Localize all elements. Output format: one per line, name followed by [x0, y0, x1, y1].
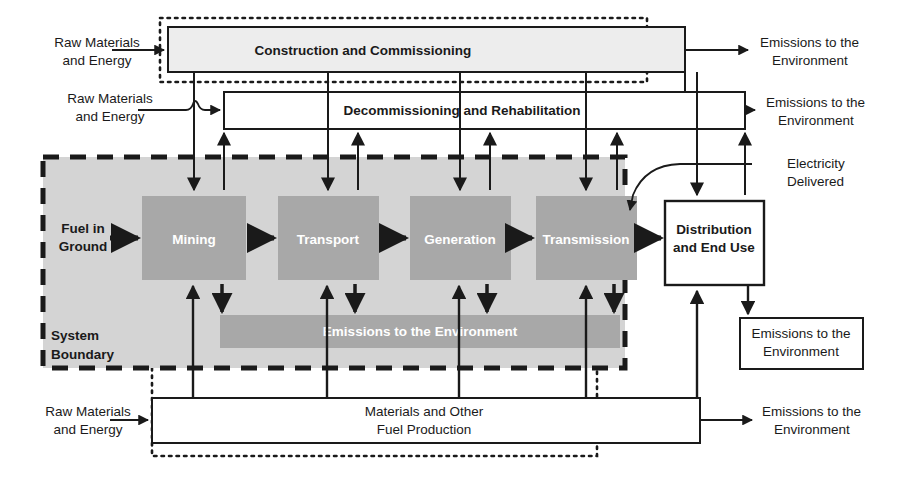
materials-production-label-line2: Fuel Production: [377, 422, 472, 437]
input-label-raw-materials-2-line2: and Energy: [75, 109, 144, 124]
output-label-emissions-3-line1: Emissions to the: [762, 404, 861, 419]
output-label-emissions-2-line1: Emissions to the: [766, 95, 865, 110]
input-label-raw-materials-2-line1: Raw Materials: [67, 91, 153, 106]
output-label-emissions-1-line1: Emissions to the: [760, 35, 859, 50]
input-label-fuel-in-ground-line1: Fuel in: [61, 221, 105, 236]
system-boundary-label-line2: Boundary: [51, 347, 114, 362]
emissions-end-use-label-line2: Environment: [763, 344, 839, 359]
process-label-transport: Transport: [297, 232, 360, 247]
materials-production-label-line1: Materials and Other: [365, 404, 484, 419]
input-label-raw-materials-3-line2: and Energy: [53, 422, 122, 437]
emissions-bar-label: Emissions to the Environment: [323, 324, 518, 339]
input-label-raw-materials-1-line1: Raw Materials: [54, 35, 140, 50]
output-label-emissions-1-line2: Environment: [772, 53, 848, 68]
output-label-electricity-delivered-line2: Delivered: [787, 174, 844, 189]
distribution-label-line1: Distribution: [676, 222, 752, 237]
construction-and-commissioning-label: Construction and Commissioning: [255, 43, 472, 58]
decommissioning-and-rehabilitation-label: Decommissioning and Rehabilitation: [343, 103, 580, 118]
distribution-label-line2: and End Use: [673, 240, 755, 255]
process-label-transmission: Transmission: [542, 232, 629, 247]
output-label-electricity-delivered-line1: Electricity: [787, 156, 845, 171]
system-boundary-label-line1: System: [51, 328, 99, 343]
output-label-emissions-3-line2: Environment: [774, 422, 850, 437]
input-label-raw-materials-3-line1: Raw Materials: [45, 404, 131, 419]
process-label-generation: Generation: [424, 232, 495, 247]
emissions-end-use-label-line1: Emissions to the: [751, 326, 850, 341]
output-label-emissions-2-line2: Environment: [778, 113, 854, 128]
input-label-fuel-in-ground-line2: Ground: [59, 239, 108, 254]
input-label-raw-materials-1-line2: and Energy: [62, 53, 131, 68]
diagram-canvas: Construction and Commissioning Decommiss…: [0, 0, 910, 479]
lifecycle-diagram: Construction and Commissioning Decommiss…: [0, 0, 910, 479]
process-label-mining: Mining: [172, 232, 216, 247]
